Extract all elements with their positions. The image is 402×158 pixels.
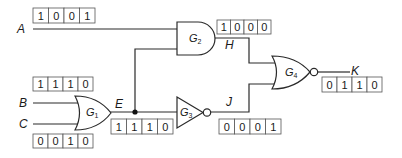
signal-label-j: J: [225, 95, 233, 109]
svg-text:1: 1: [116, 121, 122, 133]
signal-label-k: K: [351, 64, 360, 78]
svg-text:0: 0: [82, 78, 88, 90]
svg-text:0: 0: [52, 135, 58, 147]
svg-text:0: 0: [69, 10, 75, 22]
svg-text:0: 0: [37, 135, 43, 147]
signal-label-c: C: [19, 117, 28, 131]
svg-text:1: 1: [131, 121, 137, 133]
signal-label-b: B: [19, 96, 27, 110]
bits-box-k: 0110: [322, 77, 382, 92]
wire-e-to-g2: [135, 49, 177, 112]
bits-box-c: 0010: [33, 134, 93, 148]
svg-text:1: 1: [221, 21, 227, 33]
nor-bubble-g4: [310, 68, 317, 75]
bits-box-b: 1110: [33, 77, 93, 91]
svg-text:1: 1: [37, 78, 43, 90]
bits-box-j: 0001: [219, 119, 281, 134]
bits-box-a: 1001: [33, 8, 95, 23]
svg-text:0: 0: [239, 121, 245, 133]
signal-label-e: E: [115, 97, 124, 111]
svg-text:0: 0: [224, 121, 230, 133]
signal-label-h: H: [225, 38, 234, 52]
svg-text:0: 0: [371, 79, 377, 91]
svg-text:1: 1: [356, 79, 362, 91]
svg-text:1: 1: [270, 121, 276, 133]
svg-text:0: 0: [82, 135, 88, 147]
svg-text:0: 0: [162, 121, 168, 133]
svg-text:0: 0: [255, 121, 261, 133]
svg-text:0: 0: [53, 10, 59, 22]
junction-dot: [132, 109, 137, 114]
svg-text:1: 1: [67, 78, 73, 90]
svg-text:0: 0: [234, 21, 240, 33]
svg-text:0: 0: [261, 21, 267, 33]
svg-text:1: 1: [52, 78, 58, 90]
svg-text:1: 1: [67, 135, 73, 147]
svg-text:1: 1: [38, 10, 44, 22]
wire-j: [211, 84, 277, 112]
bits-box-e: 1110: [111, 119, 173, 134]
logic-circuit-diagram: G2 G1 G3 G4 A B C E H J K 1001 1000 1110…: [0, 0, 402, 158]
svg-text:0: 0: [326, 79, 332, 91]
svg-text:1: 1: [341, 79, 347, 91]
bits-box-h: 1000: [217, 20, 271, 34]
svg-text:1: 1: [147, 121, 153, 133]
svg-text:0: 0: [248, 21, 254, 33]
not-bubble-g3: [203, 109, 210, 116]
svg-text:1: 1: [84, 10, 90, 22]
signal-label-a: A: [16, 22, 25, 36]
